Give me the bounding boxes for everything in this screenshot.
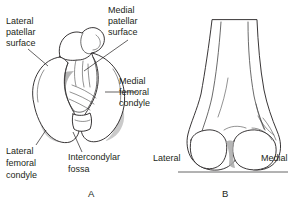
leader-lateral-patellar-surface: [28, 49, 48, 66]
panel-label-a: A: [88, 188, 95, 199]
label-line: Intercondylar: [68, 152, 120, 162]
label-lateral-femoral-condyle: Lateral femoral condyle: [6, 146, 37, 180]
label-medial-femoral-condyle: Medial femoral condyle: [119, 76, 150, 108]
label-line: Medial: [119, 76, 146, 86]
intercondylar-roof: [74, 108, 88, 112]
panel-label-b: B: [222, 188, 228, 199]
leader-lateral-femoral-condyle: [36, 130, 46, 145]
label-line: condyle: [6, 170, 37, 180]
label-line: condyle: [119, 98, 150, 108]
label-line: Medial: [108, 5, 135, 15]
medial-condyle-b: [233, 130, 276, 170]
panel-a-illustration: [33, 28, 125, 143]
label-medial-patellar-surface: Medial patellar surface: [108, 5, 138, 37]
label-line: femoral: [6, 158, 36, 168]
label-line: patellar: [108, 16, 138, 26]
label-lateral-b: Lateral: [153, 153, 181, 163]
label-line: Lateral: [6, 146, 34, 156]
label-line: femoral: [119, 87, 149, 97]
label-line: surface: [6, 38, 36, 48]
label-line: fossa: [68, 164, 90, 174]
label-line: Lateral: [6, 16, 34, 26]
trochlear-groove-2: [82, 61, 84, 87]
label-intercondylar-fossa: Intercondylar fossa: [68, 152, 120, 174]
panel-b-illustration: [178, 20, 288, 172]
anatomy-figure: Lateral patellar surface Medial patellar…: [0, 0, 300, 204]
label-line: surface: [108, 27, 138, 37]
intercondylar-fossa-outline: [72, 113, 91, 131]
label-line: patellar: [6, 27, 36, 37]
lateral-condyle-outline: [33, 57, 80, 143]
lateral-condyle-b: [190, 130, 226, 169]
label-medial-b: Medial: [261, 153, 288, 163]
trochlear-groove-1: [75, 60, 77, 86]
label-lateral-patellar-surface: Lateral patellar surface: [6, 16, 36, 48]
